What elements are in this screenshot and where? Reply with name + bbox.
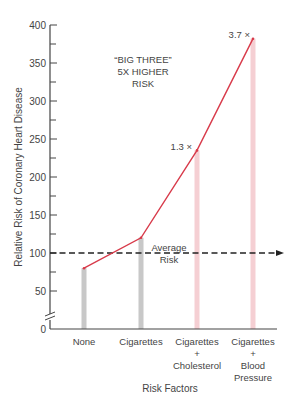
relative-risk-chart: 050100150200250300350400 NoneCigarettesC…: [0, 0, 304, 409]
data-point: [196, 149, 199, 152]
drop-bar: [139, 238, 144, 329]
y-tick-label: 0: [40, 324, 46, 335]
data-point: [83, 267, 86, 270]
multiplier-label: 3.7 ×: [229, 29, 250, 40]
y-axis-title: Relative Risk of Coronary Heart Disease: [13, 87, 24, 267]
x-category-label: +: [194, 348, 200, 359]
x-category-label: Cigarettes: [119, 336, 163, 347]
y-tick-label: 400: [29, 20, 46, 31]
y-tick-label: 150: [29, 210, 46, 221]
annotations: “BIG THREE”5X HIGHERRISK1.3 ×3.7 ×: [114, 29, 250, 152]
drop-bar: [195, 150, 200, 329]
average-risk-label: Risk: [160, 254, 179, 265]
y-tick-label: 200: [29, 172, 46, 183]
arrow-right-icon: [276, 250, 284, 256]
data-point: [252, 37, 255, 40]
x-axis-title: Risk Factors: [142, 383, 198, 394]
y-tick-label: 300: [29, 96, 46, 107]
data-point: [140, 237, 143, 240]
y-tick-label: 350: [29, 58, 46, 69]
big-three-annotation: “BIG THREE”: [114, 54, 171, 65]
big-three-annotation: RISK: [132, 78, 155, 89]
x-category-label: Cholesterol: [173, 360, 221, 371]
x-category-label: Blood: [241, 360, 265, 371]
big-three-annotation: 5X HIGHER: [117, 66, 168, 77]
drop-bar: [82, 268, 87, 329]
x-category-label: Cigarettes: [175, 336, 219, 347]
x-category-label: Pressure: [234, 372, 272, 383]
y-tick-label: 100: [29, 248, 46, 259]
y-tick-label: 250: [29, 134, 46, 145]
multiplier-label: 1.3 ×: [171, 141, 192, 152]
average-risk-line: AverageRisk: [50, 242, 284, 265]
y-axis: 050100150200250300350400: [29, 20, 57, 335]
drop-bar: [251, 39, 256, 329]
drop-bars: [82, 39, 256, 329]
x-axis: NoneCigarettesCigarettes+CholesterolCiga…: [50, 329, 277, 383]
x-category-label: +: [250, 348, 256, 359]
x-category-label: None: [73, 336, 96, 347]
x-category-label: Cigarettes: [231, 336, 275, 347]
average-risk-label: Average: [151, 242, 186, 253]
y-tick-label: 50: [35, 286, 47, 297]
